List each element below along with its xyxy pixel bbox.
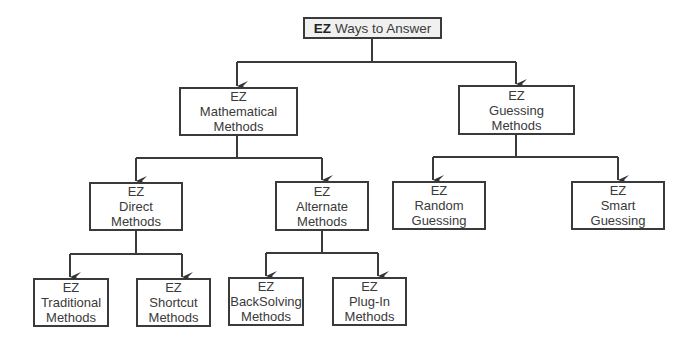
node-mathematical-methods: EZ Mathematical Methods — [179, 87, 298, 136]
node-line: Direct — [91, 199, 181, 214]
node-line: Alternate — [277, 199, 367, 214]
node-line: Guessing — [394, 213, 484, 228]
node-line: EZ — [230, 279, 302, 294]
node-line: EZ — [334, 279, 405, 294]
node-line: EZ — [35, 280, 107, 295]
node-line: Smart — [573, 198, 663, 213]
node-line: EZ — [181, 89, 296, 104]
root-node: EZ Ways to Answer — [303, 17, 442, 39]
node-line: BackSolving — [230, 294, 302, 309]
node-line: Methods — [181, 119, 296, 134]
node-line: Shortcut — [138, 295, 209, 310]
node-backsolving-methods: EZ BackSolving Methods — [228, 277, 304, 326]
node-plug-in-methods: EZ Plug-In Methods — [332, 277, 407, 326]
node-line: Methods — [91, 214, 181, 229]
node-line: Methods — [334, 309, 405, 324]
node-shortcut-methods: EZ Shortcut Methods — [136, 278, 211, 327]
node-line: Plug-In — [334, 294, 405, 309]
node-direct-methods: EZ Direct Methods — [89, 182, 183, 231]
node-line: Methods — [230, 309, 302, 324]
node-alternate-methods: EZ Alternate Methods — [275, 181, 369, 231]
node-line: EZ — [573, 183, 663, 198]
node-traditional-methods: EZ Traditional Methods — [33, 278, 109, 327]
node-line: Random — [394, 198, 484, 213]
node-random-guessing: EZ Random Guessing — [392, 181, 486, 230]
node-line: Traditional — [35, 295, 107, 310]
node-line: EZ — [460, 88, 573, 103]
node-line: Methods — [460, 118, 573, 133]
node-line: Guessing — [573, 213, 663, 228]
node-line: Methods — [277, 214, 367, 229]
node-line: EZ — [277, 184, 367, 199]
node-line: Mathematical — [181, 104, 296, 119]
root-label: Ways to Answer — [335, 21, 431, 36]
node-line: EZ — [394, 183, 484, 198]
node-line: EZ — [91, 184, 181, 199]
node-smart-guessing: EZ Smart Guessing — [571, 181, 665, 230]
node-line: EZ — [138, 280, 209, 295]
node-line: Methods — [35, 310, 107, 325]
node-guessing-methods: EZ Guessing Methods — [458, 85, 575, 135]
node-line: Methods — [138, 310, 209, 325]
root-prefix: EZ — [314, 21, 331, 36]
node-line: Guessing — [460, 103, 573, 118]
